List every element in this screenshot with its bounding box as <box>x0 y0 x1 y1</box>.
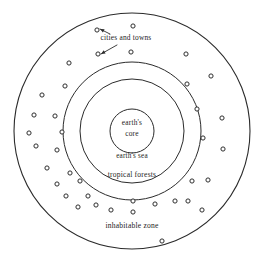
city-dot <box>94 203 98 207</box>
city-dot <box>67 61 71 65</box>
city-dot <box>206 178 210 182</box>
city-dot <box>27 131 31 135</box>
city-dot <box>220 116 224 120</box>
city-dot <box>131 210 135 214</box>
city-dot <box>53 114 57 118</box>
city-dot <box>40 93 44 97</box>
city-dot <box>221 147 225 151</box>
city-dot <box>76 205 80 209</box>
concentric-zone-diagram: cities and towns earth's core earth's se… <box>0 0 263 265</box>
city-dot <box>131 199 135 203</box>
city-dot <box>173 199 177 203</box>
city-dot <box>34 144 38 148</box>
label-earths-core-line1: earth's <box>122 118 142 127</box>
label-tropical-forests: tropical forests <box>108 170 157 179</box>
label-cities-and-towns: cities and towns <box>101 33 152 42</box>
city-dot <box>200 208 204 212</box>
city-dot <box>184 52 188 56</box>
city-dot <box>190 179 194 183</box>
label-inhabitable-zone: inhabitable zone <box>105 221 159 230</box>
city-dot <box>78 179 82 183</box>
city-dot <box>86 194 90 198</box>
city-dot <box>109 208 113 212</box>
city-dot <box>160 239 164 243</box>
city-dot <box>95 28 99 32</box>
city-dot <box>55 182 59 186</box>
city-dot <box>209 74 213 78</box>
city-dot <box>131 24 135 28</box>
city-dot <box>63 84 67 88</box>
city-dot <box>55 148 59 152</box>
city-dot <box>60 130 64 134</box>
city-dot <box>96 52 100 56</box>
city-dot <box>185 82 189 86</box>
city-dot <box>186 199 190 203</box>
label-earths-sea: earth's sea <box>116 152 148 160</box>
city-dot <box>32 113 36 117</box>
city-dot <box>201 136 205 140</box>
city-dot <box>129 50 133 54</box>
city-dot <box>68 171 72 175</box>
label-earths-core-line2: core <box>125 129 139 138</box>
diagram-canvas: cities and towns earth's core earth's se… <box>0 0 263 265</box>
city-dot <box>64 194 68 198</box>
city-dot <box>153 202 157 206</box>
city-dot <box>45 166 49 170</box>
city-dot <box>195 107 199 111</box>
